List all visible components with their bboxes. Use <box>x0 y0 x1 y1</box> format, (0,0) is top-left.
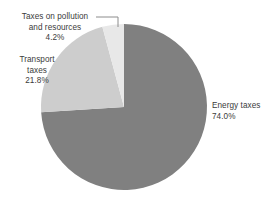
slice-label-transport: Transport taxes 21.8% <box>4 55 70 87</box>
slice-label-pollution-line2: and resources <box>10 23 100 34</box>
slice-value-energy: 74.0% <box>212 112 274 123</box>
slice-label-energy: Energy taxes 74.0% <box>212 101 274 122</box>
slice-label-transport-line1: Transport <box>4 55 70 66</box>
slice-value-pollution: 4.2% <box>10 33 100 44</box>
slice-value-transport: 21.8% <box>4 76 70 87</box>
slice-label-energy-line1: Energy taxes <box>212 101 274 112</box>
slice-label-transport-line2: taxes <box>4 66 70 77</box>
slice-label-pollution: Taxes on pollution and resources 4.2% <box>10 12 100 44</box>
pie-chart: Taxes on pollution and resources 4.2% Tr… <box>0 0 276 204</box>
slice-label-pollution-line1: Taxes on pollution <box>10 12 100 23</box>
